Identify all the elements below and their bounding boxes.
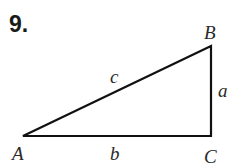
side-label-c: c: [110, 66, 119, 87]
vertex-label-a: A: [10, 143, 24, 164]
triangle-shape: [23, 46, 211, 136]
side-label-b: b: [110, 143, 120, 164]
side-label-a: a: [218, 80, 228, 101]
right-triangle-diagram: B A C c a b: [0, 0, 244, 167]
vertex-label-b: B: [204, 22, 216, 43]
vertex-label-c: C: [204, 146, 217, 167]
